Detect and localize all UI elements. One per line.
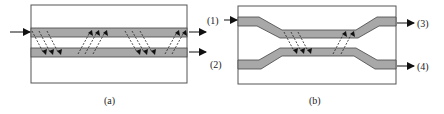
- port-label-1: (1): [207, 15, 219, 27]
- port-label-3: (3): [417, 18, 429, 30]
- upper-waveguide-a: [31, 28, 187, 37]
- port-label-4: (4): [417, 61, 429, 73]
- upper-waveguide-b: [238, 17, 396, 38]
- panel-a-frame: [31, 5, 187, 83]
- lower-waveguide-b: [238, 48, 396, 69]
- panel-b-frame: [238, 6, 396, 84]
- port-label-2: (2): [210, 59, 222, 71]
- caption-a: (a): [104, 95, 115, 107]
- panel-b: (3) (4) (b): [224, 6, 429, 107]
- caption-b: (b): [309, 95, 321, 107]
- lower-waveguide-a: [31, 48, 187, 57]
- panel-a: (a): [10, 5, 206, 107]
- coupler-diagram: (a) (1) (2): [0, 0, 444, 114]
